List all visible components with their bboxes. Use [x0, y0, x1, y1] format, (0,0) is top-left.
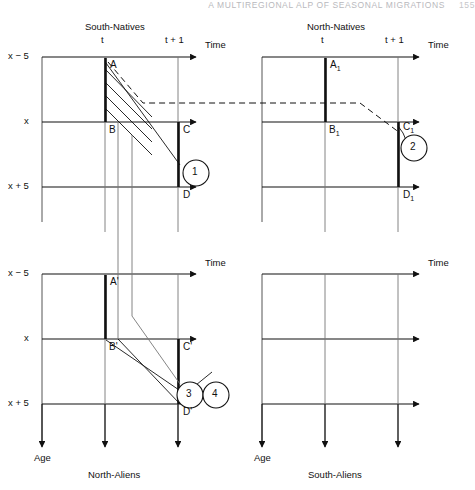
panel-north-natives-grid: [262, 57, 419, 232]
panel-north-aliens-grid: [42, 274, 196, 447]
point-label-b-prime: B': [109, 342, 118, 352]
axis-label-age-bl: Age: [34, 453, 51, 463]
time-tick-t-plus-1-tl: t + 1: [165, 35, 184, 45]
age-tick-x-tl: x: [24, 116, 29, 126]
age-tick-x-bl: x: [24, 333, 29, 343]
diagram-canvas: [0, 0, 475, 490]
point-label-a-prime: A': [110, 277, 119, 287]
point-label-c1-sub: 1: [410, 127, 414, 134]
point-label-d-prime: D': [183, 407, 192, 417]
axis-label-time-bl: Time: [205, 258, 226, 268]
callout-label-1: 1: [192, 167, 198, 177]
axis-label-time-tl: Time: [205, 40, 226, 50]
point-label-c-prime: C': [183, 342, 192, 352]
panel-title-north-natives: North-Natives: [307, 22, 365, 32]
time-tick-t-tl: t: [101, 35, 104, 45]
axis-label-age-br: Age: [254, 453, 271, 463]
point-label-a1: A1: [330, 60, 341, 74]
age-tick-x-plus-5-tl: x + 5: [8, 181, 29, 191]
point-label-b1: B1: [329, 125, 340, 139]
point-label-b1-sub: 1: [336, 130, 340, 137]
age-tick-x-minus-5-tl: x − 5: [8, 51, 29, 61]
point-label-a1-base: A: [330, 59, 337, 70]
age-tick-x-minus-5-bl: x − 5: [8, 268, 29, 278]
point-label-a1-sub: 1: [337, 65, 341, 72]
callout-label-3: 3: [186, 389, 192, 399]
panel-south-aliens-grid: [262, 274, 419, 447]
axis-label-time-tr: Time: [428, 40, 449, 50]
axis-label-time-br: Time: [428, 258, 449, 268]
panel-north-aliens-trajectories: [106, 232, 213, 404]
point-label-c: C: [183, 125, 190, 135]
panel-title-south-aliens: South-Aliens: [308, 470, 362, 480]
point-label-d1: D1: [403, 190, 414, 204]
point-label-d1-sub: 1: [410, 195, 414, 202]
panel-title-south-natives: South-Natives: [85, 22, 145, 32]
time-tick-t-tr: t: [321, 35, 324, 45]
point-label-a: A: [110, 60, 117, 70]
point-label-b: B: [109, 125, 116, 135]
panel-title-north-aliens: North-Aliens: [88, 470, 140, 480]
time-tick-t-plus-1-tr: t + 1: [385, 35, 404, 45]
callout-label-4: 4: [212, 389, 218, 399]
point-label-d: D: [183, 190, 190, 200]
figure-multiregional-migration-lexis-diagram: A MULTIREGIONAL ALP OF SEASONAL MIGRATIO…: [0, 0, 475, 490]
age-tick-x-plus-5-bl: x + 5: [8, 398, 29, 408]
point-label-c1: C1: [403, 122, 414, 136]
point-label-b1-base: B: [329, 124, 336, 135]
callout-label-2: 2: [410, 142, 416, 152]
